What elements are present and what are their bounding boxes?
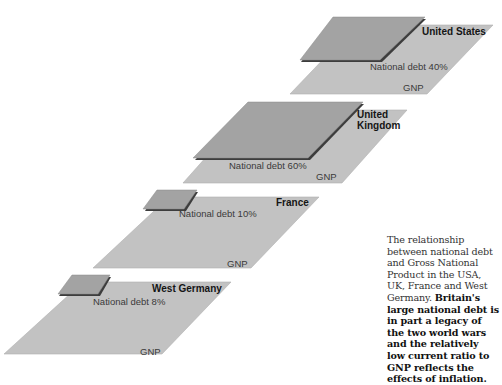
panel-united-kingdom: United Kingdom National debt 60% GNP bbox=[183, 102, 407, 183]
country-label: France bbox=[276, 197, 309, 208]
gnp-label: GNP bbox=[140, 346, 161, 357]
debt-label: National debt 8% bbox=[93, 296, 166, 307]
gnp-label: GNP bbox=[227, 258, 248, 269]
debt-label: National debt 10% bbox=[179, 208, 257, 219]
debt-label: National debt 40% bbox=[370, 61, 448, 72]
figure-caption: The relationship between national debt a… bbox=[387, 234, 499, 385]
panel-united-states: United States National debt 40% GNP bbox=[290, 17, 493, 94]
gnp-label: GNP bbox=[403, 82, 424, 93]
panel-west-germany: West Germany National debt 8% GNP bbox=[4, 275, 231, 357]
country-label-line1: United bbox=[357, 109, 388, 120]
debt-label: National debt 60% bbox=[229, 160, 307, 171]
country-label-line2: Kingdom bbox=[357, 120, 400, 131]
country-label: United States bbox=[422, 26, 486, 37]
caption-bold: Britain's large national debt is in part… bbox=[387, 292, 499, 384]
panel-france: France National debt 10% GNP bbox=[93, 190, 319, 269]
country-label: West Germany bbox=[152, 283, 222, 294]
gnp-label: GNP bbox=[316, 171, 337, 182]
